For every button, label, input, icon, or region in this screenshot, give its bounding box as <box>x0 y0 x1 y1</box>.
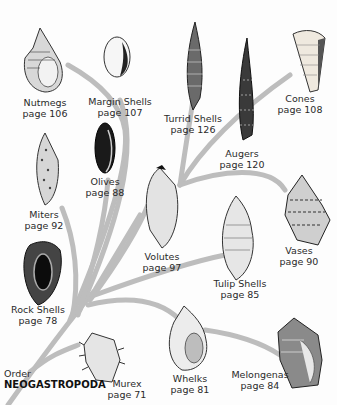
margin-shell-icon <box>104 37 130 77</box>
page-ref: page 108 <box>278 104 323 115</box>
family-label-tulip-shells: Tulip Shells page 85 <box>214 278 267 300</box>
family-name: Rock Shells <box>11 304 65 315</box>
family-label-vases: Vases page 90 <box>280 245 319 267</box>
family-label-murex: Murex page 71 <box>108 378 147 400</box>
family-label-melongenas: Melongenas page 84 <box>231 369 288 391</box>
page-ref: page 71 <box>108 389 147 400</box>
volute-shell-icon <box>146 165 177 248</box>
family-name: Tulip Shells <box>214 278 267 289</box>
page-ref: page 85 <box>214 289 267 300</box>
family-name: Vases <box>280 245 319 256</box>
family-name: Whelks <box>171 373 210 384</box>
family-label-cones: Cones page 108 <box>278 93 323 115</box>
family-name: Margin Shells <box>88 96 152 107</box>
order-label: Order NEOGASTROPODA <box>4 368 106 390</box>
family-name: Miters <box>25 209 64 220</box>
rock-shell-icon <box>24 242 61 305</box>
family-label-whelks: Whelks page 81 <box>171 373 210 395</box>
turrid-shell-icon <box>186 22 204 110</box>
family-name: Augers <box>220 148 265 159</box>
page-ref: page 84 <box>231 380 288 391</box>
neogastropoda-diagram: Nutmegs page 106 Margin Shells page 107 … <box>0 0 337 405</box>
page-ref: page 78 <box>11 315 65 326</box>
order-rank: Order <box>4 368 106 379</box>
family-name: Olives <box>86 176 125 187</box>
page-ref: page 88 <box>86 187 125 198</box>
page-ref: page 107 <box>88 107 152 118</box>
vase-shell-icon <box>285 175 330 245</box>
miter-shell-icon <box>37 133 59 205</box>
page-ref: page 90 <box>280 256 319 267</box>
family-label-miters: Miters page 92 <box>25 209 64 231</box>
family-label-margin-shells: Margin Shells page 107 <box>88 96 152 118</box>
page-ref: page 120 <box>220 159 265 170</box>
order-name: NEOGASTROPODA <box>4 379 106 390</box>
page-ref: page 106 <box>23 108 68 119</box>
tulip-shell-icon <box>222 196 253 280</box>
family-label-volutes: Volutes page 97 <box>143 251 182 273</box>
family-label-augers: Augers page 120 <box>220 148 265 170</box>
family-name: Nutmegs <box>23 97 68 108</box>
family-label-olives: Olives page 88 <box>86 176 125 198</box>
shell-illustrations <box>0 0 337 405</box>
cone-shell-icon <box>293 31 325 92</box>
page-ref: page 97 <box>143 262 182 273</box>
family-name: Turrid Shells <box>164 113 222 124</box>
whelk-shell-icon <box>169 306 206 370</box>
family-label-turrid-shells: Turrid Shells page 126 <box>164 113 222 135</box>
family-name: Cones <box>278 93 323 104</box>
family-name: Volutes <box>143 251 182 262</box>
page-ref: page 92 <box>25 220 64 231</box>
auger-shell-icon <box>239 38 254 140</box>
family-label-rock-shells: Rock Shells page 78 <box>11 304 65 326</box>
nutmeg-shell-icon <box>24 28 62 92</box>
family-label-nutmegs: Nutmegs page 106 <box>23 97 68 119</box>
page-ref: page 81 <box>171 384 210 395</box>
family-name: Murex <box>108 378 147 389</box>
page-ref: page 126 <box>164 124 222 135</box>
olive-shell-icon <box>95 123 115 173</box>
family-name: Melongenas <box>231 369 288 380</box>
